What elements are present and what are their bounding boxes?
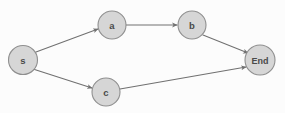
edge-s-to-c — [33, 69, 92, 88]
graph-diagram: s a b c End — [0, 0, 285, 113]
node-b-label: b — [189, 20, 195, 31]
graph-canvas: s a b c End — [0, 0, 285, 113]
node-c-label: c — [103, 87, 108, 98]
node-s-label: s — [20, 55, 25, 66]
node-b[interactable]: b — [178, 11, 206, 39]
node-end-label: End — [252, 56, 269, 66]
edge-c-to-end — [120, 67, 246, 89]
node-a[interactable]: a — [98, 11, 126, 39]
node-c[interactable]: c — [92, 78, 120, 106]
edge-s-to-a — [36, 29, 98, 52]
node-a-label: a — [109, 20, 115, 31]
edge-group — [33, 25, 248, 89]
node-end[interactable]: End — [245, 45, 275, 75]
node-s[interactable]: s — [9, 46, 38, 75]
edge-b-to-end — [203, 35, 248, 53]
